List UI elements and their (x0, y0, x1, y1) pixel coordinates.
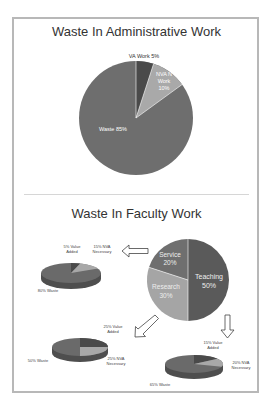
teaching-label-nva: Necessary (232, 365, 251, 370)
teaching-label-va: Added (207, 345, 219, 350)
admin-label-nva: 10% (158, 85, 169, 91)
arrow-down-icon (221, 315, 234, 338)
admin-label-nva: Work (158, 78, 171, 84)
admin-pie (79, 61, 193, 175)
faculty-label-research: Research (152, 283, 180, 290)
admin-label-va: VA Work 5% (129, 53, 159, 59)
faculty-label-teaching: 50% (202, 282, 216, 289)
service-label-nva: Necessary (93, 249, 112, 254)
arrow-left-icon (122, 245, 148, 257)
admin-label-nva: NVA N (156, 71, 172, 77)
admin-label-waste: Waste 85% (99, 126, 127, 132)
charts-canvas: VA Work 5% NVA N Work 10% Waste 85% Serv… (0, 0, 273, 409)
service-label-va: Added (66, 249, 78, 254)
service-label-waste: 80% Waste (38, 288, 59, 293)
faculty-label-service: 20% (163, 259, 176, 266)
teaching-3d-pie (165, 355, 223, 379)
research-label-nva: Necessary (107, 361, 126, 366)
research-label-va: Added (107, 329, 119, 334)
research-label-waste: 50% Waste (28, 358, 49, 363)
faculty-label-service: Service (159, 251, 181, 258)
faculty-label-research: 30% (159, 292, 172, 299)
teaching-label-waste: 65% Waste (150, 382, 171, 387)
service-3d-pie (41, 263, 101, 289)
faculty-slice-teaching (188, 239, 229, 321)
faculty-label-teaching: Teaching (195, 273, 223, 281)
research-3d-pie (52, 338, 108, 362)
arrow-down-left-icon (135, 315, 159, 337)
